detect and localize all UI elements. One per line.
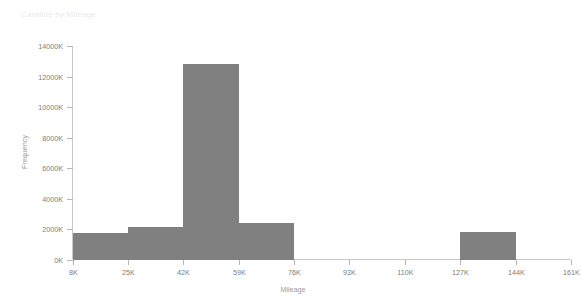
y-tick-label: 0K bbox=[54, 256, 63, 265]
y-axis-group: 0K2000K4000K6000K8000K10000K12000K14000K… bbox=[20, 42, 73, 265]
y-tick-label: 2000K bbox=[42, 225, 63, 234]
y-tick-label: 10000K bbox=[38, 103, 63, 112]
x-tick-label: 76K bbox=[288, 268, 301, 277]
x-tick-label: 110K bbox=[397, 268, 413, 277]
histogram-plot: 0K2000K4000K6000K8000K10000K12000K14000K… bbox=[0, 0, 582, 306]
x-tick-label: 93K bbox=[343, 268, 356, 277]
x-tick-group: 8K25K42K59K76K93K110K127K144K161K bbox=[69, 260, 580, 278]
y-tick-label: 6000K bbox=[42, 164, 63, 173]
histogram-bar[interactable] bbox=[128, 227, 183, 259]
histogram-bar[interactable] bbox=[73, 233, 128, 260]
x-tick-label: 42K bbox=[177, 268, 190, 277]
bar-group bbox=[73, 64, 516, 259]
y-tick-label: 12000K bbox=[38, 73, 63, 82]
x-tick-label: 25K bbox=[122, 268, 135, 277]
histogram-bar[interactable] bbox=[239, 223, 294, 260]
y-tick-label: 4000K bbox=[42, 195, 63, 204]
x-tick-label: 8K bbox=[69, 268, 78, 277]
y-tick-label: 8000K bbox=[42, 134, 63, 143]
histogram-bar[interactable] bbox=[460, 232, 515, 259]
y-axis-title: Frequency bbox=[20, 135, 29, 169]
x-tick-label: 59K bbox=[233, 268, 246, 277]
histogram-bar[interactable] bbox=[183, 64, 238, 259]
x-tick-label: 127K bbox=[452, 268, 469, 277]
chart-container: Cardfine by Mileage 0K2000K4000K6000K800… bbox=[0, 0, 582, 306]
x-tick-label: 144K bbox=[508, 268, 525, 277]
x-axis-group: 8K25K42K59K76K93K110K127K144K161K Mileag… bbox=[69, 260, 580, 295]
y-tick-group: 0K2000K4000K6000K8000K10000K12000K14000K bbox=[38, 42, 72, 265]
x-axis-title: Mileage bbox=[280, 285, 305, 294]
y-tick-label: 14000K bbox=[38, 42, 63, 51]
x-tick-label: 161K bbox=[563, 268, 580, 277]
